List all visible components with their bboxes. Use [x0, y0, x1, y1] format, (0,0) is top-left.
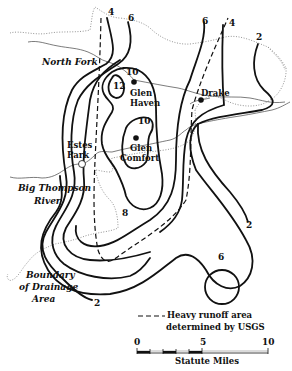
- scale-label-0: 0: [134, 338, 140, 347]
- big-thompson-label-line1: Big Thompson: [18, 184, 91, 193]
- contour-label-2-bottom: 2: [94, 299, 100, 308]
- scale-unit-label: Statute Miles: [175, 357, 239, 366]
- estes-park-label-line1: Estes: [67, 141, 92, 150]
- estes-park-label-line2: Park: [67, 151, 89, 160]
- drake-marker: [198, 97, 204, 103]
- boundary-label-line2: of Drainage: [19, 283, 78, 292]
- scale-label-5: 5: [200, 338, 206, 347]
- big-thompson-label-line2: River: [34, 197, 61, 206]
- north-fork-label: North Fork: [42, 58, 98, 67]
- legend-text-line2: determined by USGS: [166, 323, 265, 332]
- drake-label: Drake: [201, 89, 230, 98]
- scale-bar: [137, 348, 268, 354]
- contour-label-6-topleft: 6: [128, 14, 134, 23]
- contour-label-6-topmid: 6: [202, 17, 208, 26]
- glen-comfort-label-line1: Glen: [130, 144, 152, 153]
- glen-comfort-label-line2: Comfort: [120, 154, 159, 163]
- contour-label-12: 12: [113, 82, 126, 91]
- contour-label-4-top: 4: [108, 8, 114, 17]
- legend-text-line1: Heavy runoff area: [167, 311, 252, 320]
- contour-label-8: 8: [122, 209, 128, 218]
- estes-park-marker: [79, 161, 86, 168]
- contour-label-6-circle: 6: [218, 253, 224, 262]
- contour-label-2-topright: 2: [256, 33, 262, 42]
- glen-haven-label-line1: Glen: [130, 89, 152, 98]
- big-thompson-river: [10, 102, 290, 178]
- scale-label-10: 10: [262, 338, 275, 347]
- contour-label-10-b: 10: [138, 117, 151, 126]
- boundary-label-line1: Boundary: [26, 271, 75, 280]
- contour-label-10-a: 10: [126, 68, 139, 77]
- boundary-label-line3: Area: [32, 295, 55, 304]
- north-fork-river: [28, 41, 285, 102]
- glen-comfort-marker: [133, 135, 139, 141]
- contour-label-4-topright: 4: [229, 19, 235, 28]
- glen-haven-marker: [131, 79, 137, 85]
- glen-haven-label-line2: Haven: [130, 99, 160, 108]
- contour-label-2-right: 2: [246, 221, 252, 230]
- heavy-runoff-boundary: [94, 18, 228, 261]
